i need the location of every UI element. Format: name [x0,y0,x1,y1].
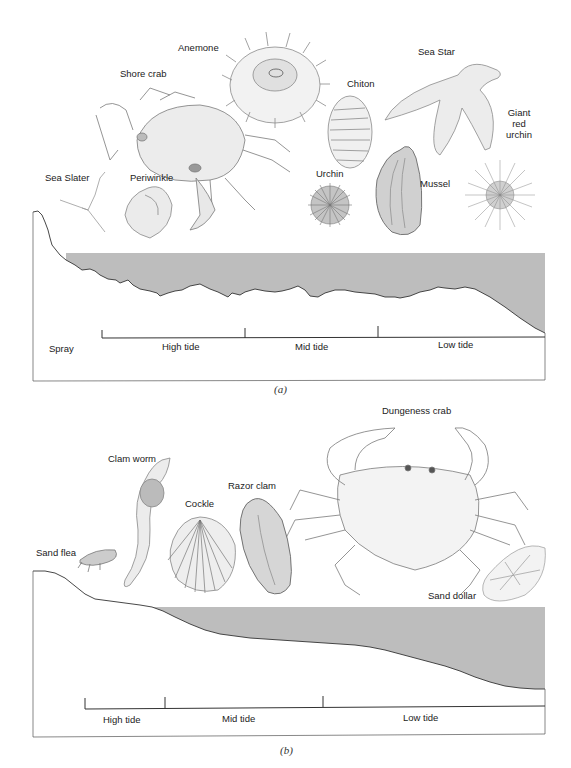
label-sea-slater: Sea Slater [45,172,89,183]
sand-flea-icon [78,550,116,572]
label-razor-clam: Razor clam [228,480,276,491]
label-sand-dollar: Sand dollar [428,590,476,601]
dungeness-crab-icon [285,428,528,595]
zone-mid-tide: Mid tide [295,341,328,352]
mussel-icon [376,146,422,234]
sandy-shore-diagram [0,400,571,768]
periwinkle-icon [125,187,172,238]
zone-high-tide: High tide [103,714,141,725]
water-area [66,253,545,333]
label-shore-crab: Shore crab [120,68,166,79]
chiton-icon [328,96,372,168]
anemone-icon [222,32,330,128]
label-sea-star: Sea Star [418,46,455,57]
clam-worm-icon [124,458,170,587]
label-giant-red-urchin: Giant red urchin [497,107,541,140]
label-urchin: Urchin [316,168,343,179]
caption-a: (a) [274,383,287,395]
label-periwinkle: Periwinkle [130,172,173,183]
diagram-frame [33,212,545,381]
zone-high-tide: High tide [162,341,200,352]
zone-low-tide: Low tide [438,339,473,350]
sand-dollar-icon [483,546,546,601]
label-anemone: Anemone [178,42,219,53]
label-cockle: Cockle [185,498,214,509]
urchin-icon [308,183,352,227]
label-sand-flea: Sand flea [36,547,76,558]
label-chiton: Chiton [347,78,374,89]
zone-low-tide: Low tide [403,712,438,723]
caption-b: (b) [280,744,293,756]
rocky-shore-diagram [0,0,571,400]
water-area [152,607,545,689]
zone-spray: Spray [49,343,74,354]
label-clam-worm: Clam worm [108,453,156,464]
giant-red-urchin-icon [465,160,535,230]
sea-star-icon [385,64,500,155]
razor-clam-icon [240,499,291,594]
zone-mid-tide: Mid tide [222,713,255,724]
label-mussel: Mussel [420,178,450,189]
label-dungeness-crab: Dungeness crab [382,405,451,416]
panel-a-rocky-shore: Anemone Shore crab Sea Star Chiton Giant… [0,0,571,400]
panel-b-sandy-shore: Dungeness crab Clam worm Razor clam Cock… [0,400,571,768]
cockle-icon [168,517,235,593]
